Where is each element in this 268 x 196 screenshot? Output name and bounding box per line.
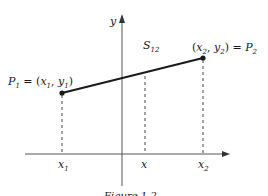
y-axis-arrow-icon [119, 14, 125, 23]
tick-label-x2: x2 [198, 158, 209, 173]
y-axis-label: y [109, 15, 117, 28]
segment-label: S12 [143, 39, 160, 54]
figure-caption: Figure 1.2 [103, 190, 157, 196]
segment-s12 [62, 58, 203, 93]
tick-label-x: x [141, 158, 148, 171]
line-segment-diagram: y S12 P1 = (x1, y1) (x2, y2) = P2 x1 x x… [0, 0, 268, 196]
point-p1 [59, 90, 64, 95]
p2-label: (x2, y2) = P2 [192, 41, 258, 56]
point-p2 [200, 55, 205, 60]
p1-label: P1 = (x1, y1) [7, 75, 73, 90]
x-axis-arrow-icon [222, 151, 230, 157]
tick-label-x1: x1 [58, 158, 69, 173]
